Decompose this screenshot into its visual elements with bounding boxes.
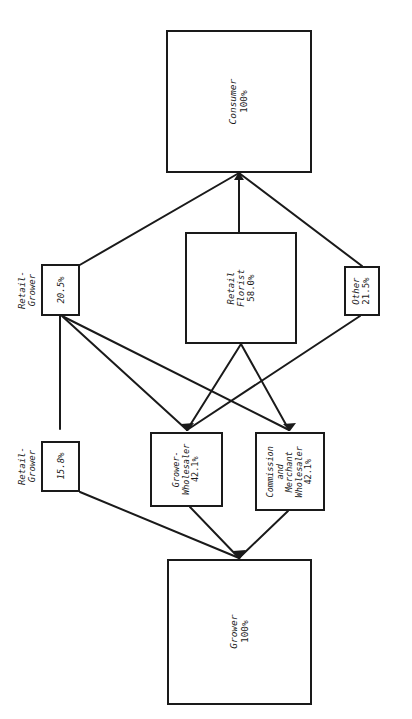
node-retail-grower-bottom-label-text: Retail- Grower	[17, 448, 37, 486]
node-grower-wholesaler-value: 42.1%	[191, 444, 201, 495]
node-retail-grower-bottom-value: 15.8%	[55, 453, 65, 480]
edge-growerwholesaler-to-retailgrowert	[62, 316, 187, 430]
node-retail-grower-top-label: Retail- Grower	[12, 264, 42, 316]
node-commission-text: Commission and Merchant Wholesaler 42.1%	[266, 446, 314, 497]
node-grower-value: 100%	[239, 615, 250, 649]
node-grower-text: Grower 100%	[229, 615, 250, 649]
label-line-1: Retail-	[17, 448, 27, 486]
node-other-value: 21.5%	[362, 277, 372, 304]
node-consumer-value: 100%	[239, 79, 250, 125]
node-grower-wholesaler-label-1: Grower-	[172, 444, 182, 495]
node-retail-florist-text: Retail Florist 58.0%	[226, 269, 256, 307]
node-consumer-text: Consumer 100%	[228, 79, 249, 125]
label-line-2: Grower	[27, 271, 37, 309]
node-retail-grower-bottom-label: Retail- Grower	[12, 441, 42, 492]
node-retail-grower-bottom[interactable]: 15.8%	[41, 441, 80, 492]
node-retail-grower-top-label-text: Retail- Grower	[17, 271, 37, 309]
node-grower[interactable]: Grower 100%	[167, 559, 312, 705]
node-commission-merchant-wholesaler[interactable]: Commission and Merchant Wholesaler 42.1%	[255, 432, 325, 511]
label-line-1: Retail-	[17, 271, 27, 309]
edge-grower-to-commission	[239, 511, 288, 558]
node-grower-wholesaler[interactable]: Grower- Wholesaler 42.1%	[150, 432, 223, 507]
node-retail-florist[interactable]: Retail Florist 58.0%	[185, 232, 297, 344]
node-other[interactable]: Other 21.5%	[344, 266, 380, 316]
edge-growerwholesaler-to-retailflorist	[187, 344, 241, 430]
diagram-canvas: Consumer 100% 20.5% Retail- Grower Retai…	[0, 0, 412, 719]
node-commission-value: 42.1%	[304, 446, 314, 497]
label-line-2: Grower	[27, 448, 37, 486]
node-retail-florist-label-1: Retail	[226, 269, 236, 307]
node-retail-grower-top-value: 20.5%	[55, 276, 65, 303]
node-other-label: Other	[352, 277, 362, 304]
node-retail-florist-value: 58.0%	[246, 269, 256, 307]
node-grower-wholesaler-text: Grower- Wholesaler 42.1%	[172, 444, 201, 495]
node-retail-grower-top[interactable]: 20.5%	[41, 264, 80, 316]
node-other-text: Other 21.5%	[352, 277, 372, 304]
node-retail-florist-label-2: Florist	[236, 269, 246, 307]
node-consumer[interactable]: Consumer 100%	[166, 30, 312, 173]
edge-grower-to-growerwholesaler	[190, 507, 239, 558]
